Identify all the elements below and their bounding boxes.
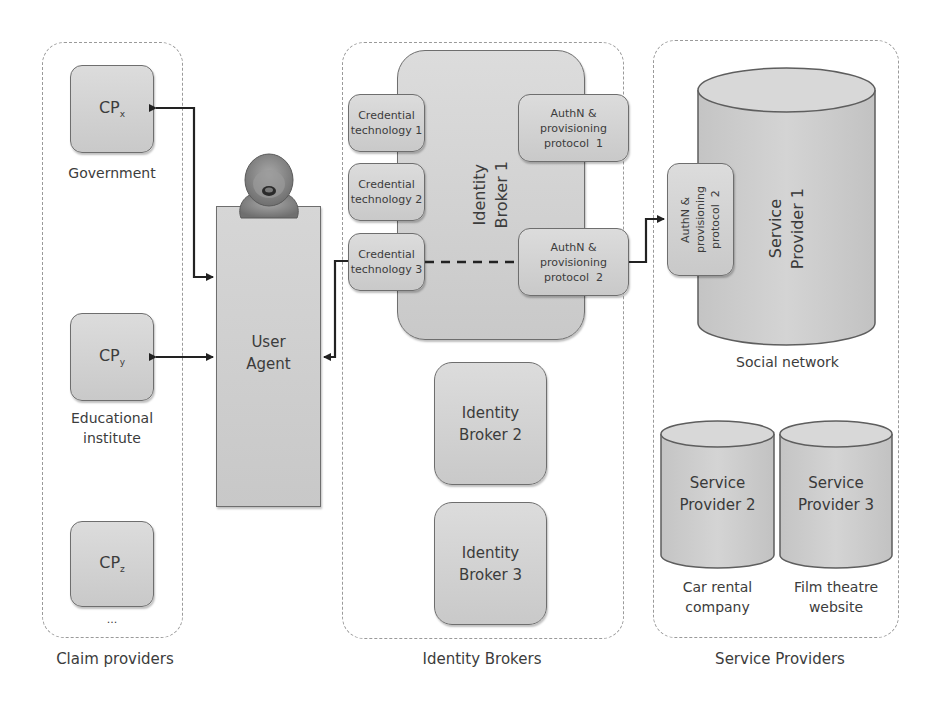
claim-provider-y-label: CPy — [99, 346, 125, 367]
authn-provisioning-protocol-1[interactable]: AuthN & provisioning protocol 1 — [518, 94, 629, 162]
claim-providers-label: Claim providers — [30, 648, 200, 670]
film-theatre-caption: Film theatrewebsite — [780, 577, 892, 617]
user-avatar-icon — [233, 148, 305, 226]
more-claim-providers-ellipsis: ... — [62, 612, 162, 627]
service-providers-label: Service Providers — [690, 648, 870, 670]
identity-broker-2[interactable]: IdentityBroker 2 — [434, 362, 547, 485]
credential-technology-3[interactable]: Credentialtechnology 3 — [348, 233, 425, 291]
service-provider-3-label: ServiceProvider 3 — [798, 472, 874, 516]
sp1-authn-provisioning-protocol-2[interactable]: AuthN & provisioning protocol 2 — [667, 163, 734, 276]
identity-broker-3[interactable]: IdentityBroker 3 — [434, 502, 547, 625]
credential-technology-1[interactable]: Credentialtechnology 1 — [348, 94, 425, 152]
claim-provider-y[interactable]: CPy — [70, 313, 154, 401]
user-agent-label: User Agent — [246, 331, 290, 375]
claim-provider-x[interactable]: CPx — [70, 65, 154, 153]
service-provider-2-label: ServiceProvider 2 — [679, 472, 755, 516]
authn-provisioning-protocol-2[interactable]: AuthN & provisioning protocol 2 — [518, 228, 629, 296]
claim-provider-x-label: CPx — [99, 98, 125, 119]
social-network-caption: Social network — [700, 352, 875, 372]
credential-technology-2[interactable]: Credentialtechnology 2 — [348, 163, 425, 221]
educational-caption-line2: institute — [50, 428, 174, 448]
identity-brokers-label: Identity Brokers — [392, 648, 572, 670]
identity-broker-1-label: Identity Broker 1 — [469, 161, 513, 228]
educational-caption-line1: Educational — [50, 408, 174, 428]
user-agent[interactable]: User Agent — [216, 206, 321, 507]
service-provider-3[interactable]: ServiceProvider 3 — [780, 447, 892, 557]
educational-institute-caption: Educational institute — [50, 408, 174, 448]
car-rental-caption: Car rentalcompany — [661, 577, 774, 617]
service-provider-2[interactable]: ServiceProvider 2 — [661, 447, 774, 557]
claim-provider-z-label: CPz — [99, 553, 125, 574]
government-caption: Government — [50, 163, 174, 183]
service-provider-1-label: Service Provider 1 — [765, 188, 809, 269]
claim-provider-z[interactable]: CPz — [70, 521, 154, 607]
